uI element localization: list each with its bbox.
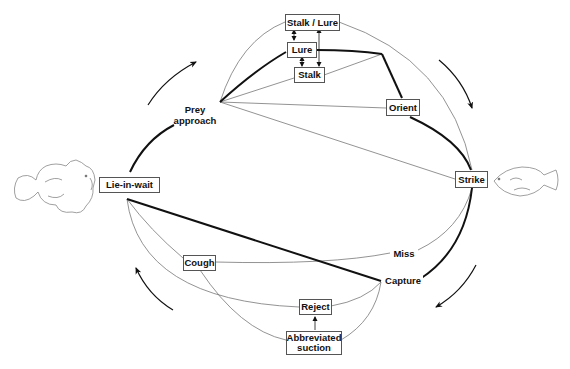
node-prey-approach: Prey approach xyxy=(170,104,220,126)
edge-liewait-reject xyxy=(127,199,299,307)
edge-liewait-prey xyxy=(130,125,174,172)
node-lure: Lure xyxy=(287,42,317,58)
node-capture-label: Capture xyxy=(385,275,421,286)
node-orient-label: Orient xyxy=(389,103,417,113)
node-lie-in-wait: Lie-in-wait xyxy=(99,177,160,193)
node-miss: Miss xyxy=(390,248,418,259)
node-lure-label: Lure xyxy=(292,45,313,55)
node-reject: Reject xyxy=(299,299,332,315)
edge-prey-stalklure xyxy=(220,22,285,102)
edge-stalk-junction xyxy=(324,54,382,75)
node-orient: Orient xyxy=(386,99,420,116)
node-miss-label: Miss xyxy=(393,248,414,259)
edge-strike-miss xyxy=(418,188,472,250)
node-capture: Capture xyxy=(383,275,423,286)
edge-orient-strike xyxy=(410,117,471,170)
node-stalk-lure: Stalk / Lure xyxy=(285,14,340,31)
node-prey-approach-line2: approach xyxy=(170,115,220,126)
cycle-arrow-top-left xyxy=(148,62,196,105)
node-stalk-lure-label: Stalk / Lure xyxy=(287,18,338,28)
edge-junction-orient xyxy=(382,54,402,98)
edge-reject-capture xyxy=(331,282,381,306)
node-reject-label: Reject xyxy=(301,302,330,312)
edge-miss-cough xyxy=(215,253,390,263)
cycle-arrow-bottom-right xyxy=(436,265,476,307)
edge-prey-stalk xyxy=(220,78,294,102)
prey-fish-icon xyxy=(494,167,558,196)
node-stalk-label: Stalk xyxy=(298,70,321,80)
node-prey-approach-line1: Prey xyxy=(170,104,220,115)
cycle-arrow-bottom-left xyxy=(136,268,173,310)
edge-prey-orient xyxy=(220,102,386,108)
node-cough-label: Cough xyxy=(184,258,214,268)
node-strike-label: Strike xyxy=(458,175,484,185)
node-abbreviated-suction: Abbreviated suction xyxy=(286,331,342,355)
node-cough: Cough xyxy=(183,255,216,271)
edge-strike-capture xyxy=(420,188,472,279)
primary-transitions xyxy=(127,50,472,281)
node-lie-in-wait-label: Lie-in-wait xyxy=(106,180,153,190)
node-abbreviated-suction-line2: suction xyxy=(297,343,331,353)
node-stalk: Stalk xyxy=(294,67,325,83)
edge-lure-junction xyxy=(316,50,382,54)
edge-abbrev-capture xyxy=(341,282,381,340)
cycle-arrow-top-right xyxy=(439,60,472,108)
node-strike: Strike xyxy=(455,171,488,188)
frogfish-icon xyxy=(14,160,95,213)
cycle-arrows xyxy=(136,60,476,310)
